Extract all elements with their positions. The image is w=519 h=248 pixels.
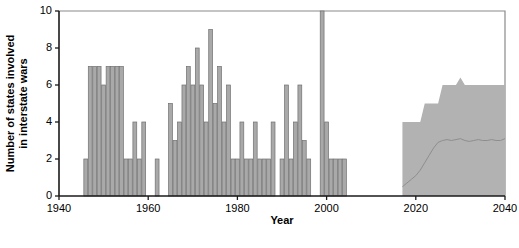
bar-1981	[240, 122, 244, 196]
bar-1988	[271, 122, 275, 196]
bar-1966	[173, 141, 177, 197]
bar-1991	[285, 85, 289, 196]
bar-1986	[262, 159, 266, 196]
x-tick-label-2020: 2020	[404, 202, 428, 214]
bar-1954	[120, 67, 124, 197]
bar-1987	[267, 159, 271, 196]
bar-2004	[343, 159, 347, 196]
bar-1975	[213, 104, 217, 197]
bar-1950	[102, 85, 106, 196]
projection-band-area	[402, 78, 505, 196]
bar-1974	[209, 30, 213, 197]
bar-1985	[258, 159, 262, 196]
bar-1949	[97, 67, 101, 197]
y-tick-label-6: 6	[46, 78, 52, 90]
bar-1962	[155, 159, 159, 196]
chart-figure: 0246810194019601980200020202040YearNumbe…	[0, 0, 519, 248]
bar-1978	[227, 85, 231, 196]
bar-1953	[115, 67, 119, 197]
bar-1952	[111, 67, 115, 197]
bar-1946	[84, 159, 88, 196]
bar-1947	[88, 67, 92, 197]
bar-1976	[218, 67, 222, 197]
bar-series	[84, 11, 347, 196]
x-tick-label-1980: 1980	[225, 202, 249, 214]
bar-1996	[307, 159, 311, 196]
bar-1977	[222, 122, 226, 196]
x-tick-label-2000: 2000	[314, 202, 338, 214]
bar-1980	[235, 159, 239, 196]
bar-1972	[200, 85, 204, 196]
y-tick-label-10: 10	[40, 4, 52, 16]
bar-1948	[93, 67, 97, 197]
x-tick-label-1940: 1940	[47, 202, 71, 214]
bar-1967	[178, 122, 182, 196]
bar-1956	[128, 159, 132, 196]
bar-1990	[280, 159, 284, 196]
bar-1979	[231, 159, 235, 196]
bar-1993	[293, 122, 297, 196]
bar-1994	[298, 85, 302, 196]
bar-1969	[186, 67, 190, 197]
y-tick-label-4: 4	[46, 115, 52, 127]
bar-1999	[320, 11, 324, 196]
bar-1957	[133, 122, 137, 196]
y-axis-title-line-2: in interstate wars	[17, 58, 29, 148]
bar-1968	[182, 85, 186, 196]
y-tick-label-8: 8	[46, 41, 52, 53]
bar-2001	[329, 159, 333, 196]
bar-1982	[244, 159, 248, 196]
bar-1959	[142, 122, 146, 196]
bar-1958	[137, 159, 141, 196]
bar-1951	[106, 67, 110, 197]
bar-1984	[253, 122, 257, 196]
bar-2003	[338, 159, 342, 196]
bar-1970	[191, 85, 195, 196]
x-axis-title: Year	[270, 214, 294, 226]
projection-band	[402, 78, 505, 196]
y-axis-title-line-1: Number of states involved	[4, 35, 16, 173]
bar-1955	[124, 159, 128, 196]
bar-2002	[334, 159, 338, 196]
bar-2000	[325, 122, 329, 196]
bar-1973	[204, 122, 208, 196]
bar-1995	[302, 141, 306, 197]
x-tick-label-2040: 2040	[493, 202, 517, 214]
bar-1971	[195, 48, 199, 196]
chart-canvas: 0246810194019601980200020202040YearNumbe…	[0, 0, 519, 248]
bar-1965	[169, 104, 173, 197]
y-tick-label-0: 0	[46, 189, 52, 201]
bar-1983	[249, 159, 253, 196]
bar-1992	[289, 159, 293, 196]
y-tick-label-2: 2	[46, 152, 52, 164]
x-tick-label-1960: 1960	[136, 202, 160, 214]
